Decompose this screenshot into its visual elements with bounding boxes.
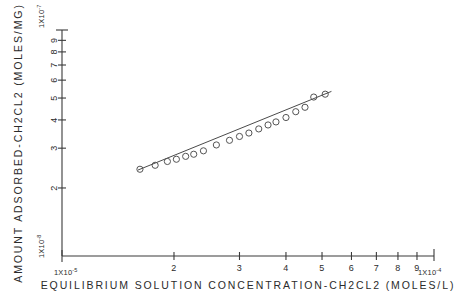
x-axis-title: EQUILIBRIUM SOLUTION CONCENTRATION-CH2CL… [41, 279, 456, 291]
data-point-marker [283, 114, 289, 120]
y-axis-title: AMOUNT ADSORBED-CH2CL2 (MOLES/MG) [12, 3, 24, 283]
data-point-marker [183, 153, 189, 159]
svg-text:1X10-7: 1X10-7 [36, 4, 46, 28]
y-tick-label: 6 [49, 77, 59, 82]
y-axis-start-decade-label: 1X10-8 [36, 234, 46, 258]
y-tick-label: 9 [49, 38, 59, 43]
data-point-marker [302, 104, 308, 110]
svg-text:1X10-4: 1X10-4 [418, 267, 442, 277]
x-tick-label: 4 [283, 263, 288, 273]
data-point-marker [164, 158, 170, 164]
data-point-marker [173, 156, 179, 162]
data-point-marker [226, 137, 232, 143]
x-tick-label: 3 [237, 263, 242, 273]
x-tick-label: 2 [171, 263, 176, 273]
y-tick-label: 5 [49, 95, 59, 100]
y-tick-label: 4 [49, 117, 59, 122]
x-tick-label: 5 [319, 263, 324, 273]
y-tick-label: 2 [49, 185, 59, 190]
x-tick-label: 7 [374, 263, 379, 273]
y-tick-label: 7 [49, 62, 59, 67]
x-tick-label: 6 [349, 263, 354, 273]
data-point-marker [236, 133, 242, 139]
data-point-marker [200, 148, 206, 154]
y-axis-end-decade-label: 1X10-7 [36, 4, 46, 28]
data-point-marker [293, 109, 299, 115]
y-tick-label: 3 [49, 145, 59, 150]
svg-text:1X10-8: 1X10-8 [36, 234, 46, 258]
data-point-marker [265, 122, 271, 128]
data-point-marker [213, 142, 219, 148]
data-point-marker [311, 94, 317, 100]
data-point-marker [256, 126, 262, 132]
x-axis-end-decade-label: 1X10-4 [418, 267, 442, 277]
x-tick-label: 8 [395, 263, 400, 273]
data-point-marker [246, 130, 252, 136]
adsorption-isotherm-plot: 23456789234567891X10-51X10-41X10-81X10-7… [0, 0, 470, 301]
y-tick-label: 8 [49, 49, 59, 54]
data-point-marker [191, 151, 197, 157]
chart-figure: 23456789234567891X10-51X10-41X10-81X10-7… [0, 0, 470, 301]
data-point-marker [273, 119, 279, 125]
svg-text:1X10-5: 1X10-5 [54, 267, 78, 277]
x-axis-start-decade-label: 1X10-5 [54, 267, 78, 277]
